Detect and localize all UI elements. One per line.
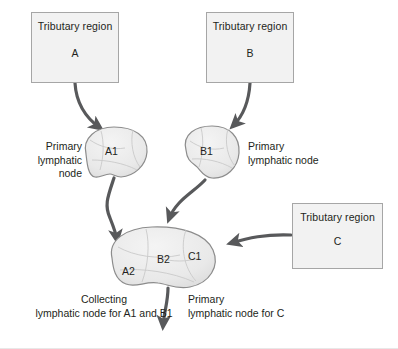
node-label-a2: A2 [122,265,135,277]
arrow-a1-to-collecting [107,178,117,240]
tributary-a-letter: A [32,47,118,59]
node-label-a1: A1 [105,145,118,157]
caption-collecting-lymphatic-node: Collecting lymphatic node for A1 and B1 [0,293,208,320]
tributary-a-title: Tributary region [32,20,118,32]
tributary-c-letter: C [293,235,382,247]
node-label-b1: B1 [200,145,213,157]
caption-primary-lymphatic-node-for-c: Primary lymphatic node for C [188,293,348,320]
node-label-b2: B2 [157,253,170,265]
tributary-region-box-b[interactable]: Tributary region B [206,12,294,83]
node-label-c1: C1 [188,250,201,262]
arrow-b1-to-collecting [169,180,205,219]
arrow-c-to-collecting [231,235,291,243]
tributary-b-title: Tributary region [207,20,293,32]
tributary-region-box-c[interactable]: Tributary region C [292,203,383,269]
arrow-a-to-a1 [75,83,100,128]
caption-primary-lymphatic-node-right: Primary lymphatic node [248,140,378,167]
arrow-b-to-b1 [233,83,250,126]
tributary-b-letter: B [207,47,293,59]
caption-primary-lymphatic-node-left: Primary lymphatic node [2,140,82,181]
tributary-c-title: Tributary region [293,211,382,223]
diagram-canvas: Tributary region A Tributary region B Tr… [0,0,398,349]
tributary-region-box-a[interactable]: Tributary region A [31,12,119,83]
